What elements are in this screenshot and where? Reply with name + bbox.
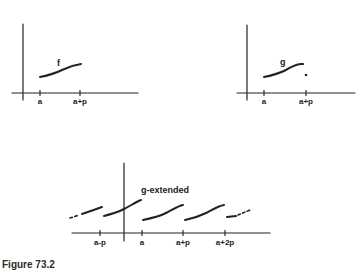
g-extended-right-dashed bbox=[238, 210, 250, 215]
f-curve bbox=[40, 64, 81, 77]
tick-label-a: a bbox=[262, 97, 267, 106]
f-panel bbox=[12, 24, 138, 100]
tick-label-a: a bbox=[140, 238, 145, 247]
f-label: f bbox=[57, 58, 61, 68]
tick-label-a-plus-p: a+p bbox=[176, 238, 190, 247]
figure-caption: Figure 73.2 bbox=[2, 259, 55, 270]
tick-label-a-minus-p: a-p bbox=[94, 238, 106, 247]
tick-label-a-plus-2p: a+2p bbox=[216, 238, 235, 247]
g-extended-left-dashed bbox=[70, 215, 79, 218]
g-label: g bbox=[280, 57, 286, 67]
tick-label-a: a bbox=[38, 97, 43, 106]
figure-canvas: f a a+p g a a+p g-extended a-p a a+p a+2… bbox=[0, 0, 357, 274]
g-extended-piece-2 bbox=[143, 205, 183, 220]
g-extended-piece-1 bbox=[104, 200, 141, 216]
g-extended-piece-4 bbox=[227, 216, 236, 217]
g-extended-piece-0 bbox=[82, 207, 102, 214]
g-extended-panel bbox=[70, 163, 270, 241]
tick-label-a-plus-p: a+p bbox=[299, 97, 313, 106]
g-panel bbox=[237, 25, 355, 100]
g-extended-label: g-extended bbox=[141, 185, 189, 195]
isolated-point bbox=[305, 74, 308, 77]
g-extended-piece-3 bbox=[185, 205, 224, 220]
tick-label-a-plus-p: a+p bbox=[73, 97, 87, 106]
